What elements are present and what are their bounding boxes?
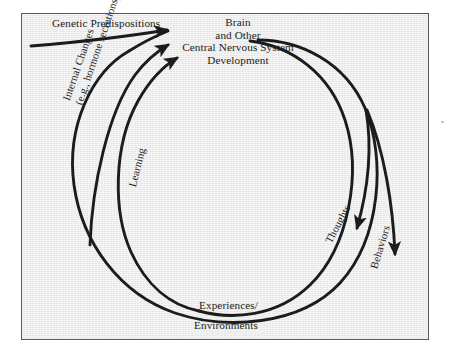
label-brain-line-3: Central Nervous System: [175, 41, 301, 54]
curve-inner-cycle: [199, 41, 352, 315]
label-experiences: Experiences/: [199, 299, 258, 312]
label-brain-development: Brain and Other Central Nervous System D…: [175, 16, 301, 66]
label-brain-line-2: and Other: [175, 29, 301, 42]
arrow-brain-to-thoughts: [357, 110, 369, 228]
scan-artifact-speck: [441, 121, 444, 123]
label-brain-line-4: Development: [175, 54, 301, 67]
label-brain-line-1: Brain: [175, 16, 301, 29]
figure-canvas: Genetic Predispositions Brain and Other …: [0, 0, 453, 354]
label-environments: Environments: [194, 319, 258, 332]
